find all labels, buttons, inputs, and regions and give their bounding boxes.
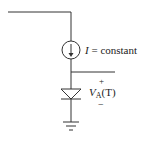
voltage-minus-sign: −: [98, 99, 104, 110]
current-arrow-head-icon: [69, 53, 74, 57]
voltage-plus-sign: +: [99, 76, 104, 86]
diode-icon: [61, 89, 81, 99]
current-label: I = constant: [84, 44, 137, 56]
ground-icon: [63, 122, 79, 130]
input-wire: [8, 12, 71, 41]
voltage-label: VA(T): [89, 86, 116, 100]
circuit-diagram: I = constant + VA(T) −: [0, 0, 151, 141]
